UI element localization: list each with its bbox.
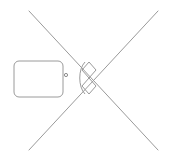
drawing-canvas[interactable]: [0, 0, 173, 161]
canvas-svg-surface[interactable]: [0, 0, 173, 161]
